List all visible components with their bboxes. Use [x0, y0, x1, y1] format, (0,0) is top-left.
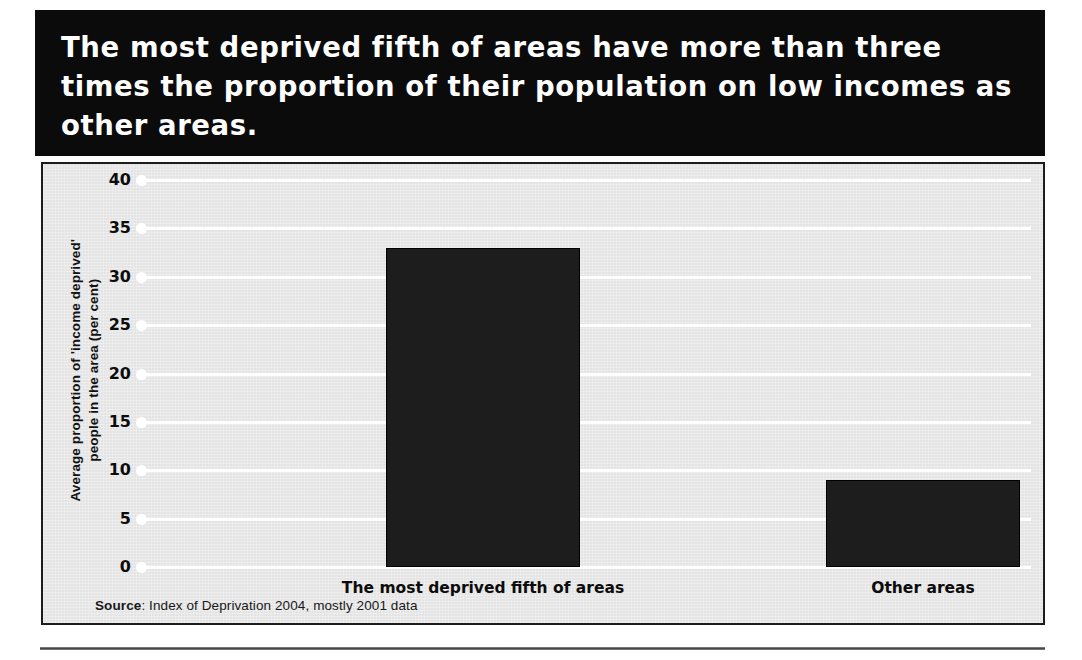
axis-tick-dot: [136, 320, 147, 331]
axis-tick-dot: [136, 514, 147, 525]
y-axis-tick-label: 10: [73, 460, 131, 479]
plot-area: The most deprived fifth of areasOther ar…: [141, 180, 1031, 567]
gridline: [141, 421, 1031, 424]
axis-tick-dot: [136, 465, 147, 476]
source-label: Source: [95, 598, 141, 613]
y-axis-tick-label: 30: [73, 267, 131, 286]
x-axis-category-label: Other areas: [756, 579, 1082, 597]
y-axis-tick-label: 40: [73, 170, 131, 189]
axis-tick-dot: [136, 223, 147, 234]
axis-tick-dot: [136, 417, 147, 428]
axis-tick-dot: [136, 369, 147, 380]
axis-tick-dot: [136, 272, 147, 283]
gridline: [141, 179, 1031, 182]
bar: [826, 480, 1020, 567]
gridline: [141, 373, 1031, 376]
axis-tick-dot: [136, 175, 147, 186]
figure-container: The most deprived fifth of areas have mo…: [35, 10, 1045, 625]
y-axis-tick-label: 20: [73, 364, 131, 383]
gridline: [141, 227, 1031, 230]
y-axis-tick-labels: 0510152025303540: [73, 180, 131, 567]
source-separator: :: [141, 598, 149, 613]
y-axis-tick-label: 15: [73, 412, 131, 431]
y-axis-tick-label: 5: [73, 509, 131, 528]
y-axis-tick-label: 35: [73, 218, 131, 237]
source-note: Source: Index of Deprivation 2004, mostl…: [95, 598, 418, 613]
y-axis-tick-label: 0: [73, 557, 131, 576]
bar: [386, 248, 580, 567]
headline-title: The most deprived fifth of areas have mo…: [61, 28, 1023, 145]
gridline: [141, 469, 1031, 472]
chart-panel: Average proportion of 'income deprived' …: [41, 162, 1045, 625]
gridline: [141, 324, 1031, 327]
gridline: [141, 276, 1031, 279]
x-axis-category-label: The most deprived fifth of areas: [316, 579, 650, 597]
source-text: Index of Deprivation 2004, mostly 2001 d…: [149, 598, 417, 613]
axis-tick-dot: [136, 562, 147, 573]
y-axis-tick-label: 25: [73, 315, 131, 334]
bottom-divider-rule: [40, 647, 1045, 650]
headline-band: The most deprived fifth of areas have mo…: [35, 10, 1045, 156]
